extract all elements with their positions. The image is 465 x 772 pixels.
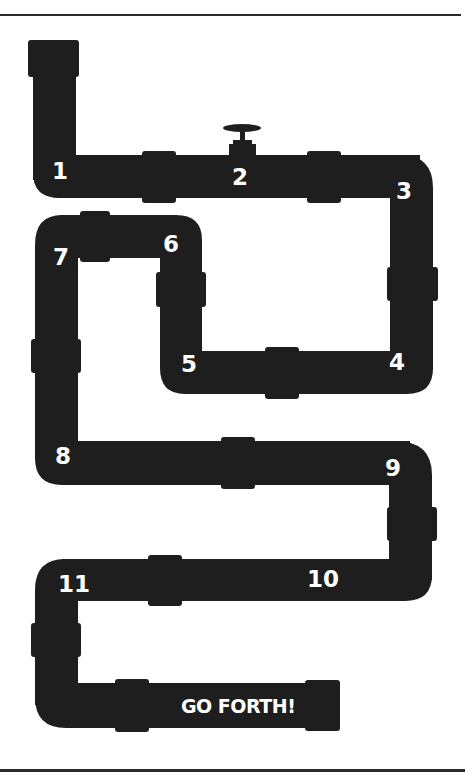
- pipe-diagram: [0, 0, 465, 772]
- step-label-4: 4: [389, 351, 405, 374]
- step-label-6: 6: [163, 233, 179, 256]
- coupling-icon: [148, 555, 182, 606]
- coupling-icon: [115, 679, 149, 732]
- coupling-icon: [387, 267, 438, 301]
- go-forth-label: GO FORTH!: [181, 697, 295, 716]
- coupling-icon: [387, 507, 437, 541]
- coupling-icon: [142, 151, 176, 203]
- end-cap-icon: [305, 680, 340, 731]
- valve-icon: [223, 124, 261, 158]
- step-label-5: 5: [181, 353, 197, 376]
- coupling-icon: [307, 151, 341, 203]
- step-label-2: 2: [232, 166, 248, 189]
- step-label-10: 10: [307, 568, 339, 591]
- step-label-8: 8: [55, 445, 71, 468]
- coupling-icon: [31, 339, 81, 373]
- step-label-11: 11: [58, 573, 90, 596]
- coupling-icon: [265, 347, 299, 399]
- coupling-icon: [221, 437, 255, 489]
- step-label-3: 3: [396, 180, 412, 203]
- step-label-9: 9: [385, 457, 401, 480]
- coupling-icon: [31, 623, 81, 657]
- coupling-icon: [156, 272, 206, 307]
- step-label-7: 7: [53, 246, 69, 269]
- coupling-icon: [80, 211, 110, 262]
- pipe-segment: [62, 559, 392, 601]
- step-label-1: 1: [52, 160, 68, 183]
